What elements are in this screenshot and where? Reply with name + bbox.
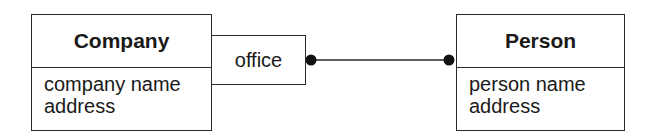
attribute: address (469, 95, 586, 117)
attribute: company name (44, 73, 181, 95)
attribute: address (44, 95, 181, 117)
class-name: Company (32, 15, 211, 68)
class-person: Person person name address (456, 14, 625, 131)
class-name: Person (457, 15, 624, 68)
attribute: person name (469, 73, 586, 95)
qualifier-label: office (235, 49, 282, 72)
many-multiplicity-dot-icon (306, 55, 317, 66)
many-multiplicity-dot-icon (444, 55, 455, 66)
qualifier-office: office (211, 35, 306, 85)
class-company: Company company name address (31, 14, 212, 131)
class-attributes: company name address (44, 73, 181, 117)
class-attributes: person name address (469, 73, 586, 117)
